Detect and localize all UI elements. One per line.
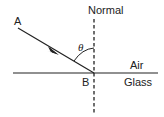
- glass-label: Glass: [124, 77, 152, 88]
- point-a-label: A: [14, 16, 21, 27]
- angle-arc: [74, 48, 94, 61]
- point-b-label: B: [82, 77, 89, 88]
- angle-theta-label: θ: [78, 42, 83, 53]
- normal-label: Normal: [88, 5, 123, 16]
- air-label: Air: [130, 60, 143, 71]
